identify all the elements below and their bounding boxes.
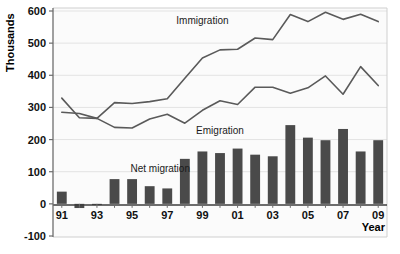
bar-94 bbox=[110, 179, 120, 204]
y-tick-label-600: 600 bbox=[28, 5, 46, 17]
bar-03 bbox=[268, 156, 278, 204]
y-axis-ticks: -1000100200300400500600 bbox=[24, 5, 53, 242]
y-tick-label-100: 100 bbox=[28, 166, 46, 178]
x-axis-title: Year bbox=[362, 221, 386, 233]
y-tick-label-0: 0 bbox=[40, 198, 46, 210]
y-tick-label-200: 200 bbox=[28, 134, 46, 146]
y-tick-label-400: 400 bbox=[28, 69, 46, 81]
bar-91 bbox=[57, 192, 67, 204]
bar-00 bbox=[215, 153, 225, 204]
y-axis-title: Thousands bbox=[4, 13, 16, 72]
x-tick-label-09: 09 bbox=[372, 209, 384, 221]
x-tick-label-01: 01 bbox=[231, 209, 243, 221]
net-migration-label: Net migration bbox=[130, 163, 189, 174]
bar-04 bbox=[285, 125, 295, 204]
x-tick-label-03: 03 bbox=[267, 209, 279, 221]
x-tick-label-93: 93 bbox=[91, 209, 103, 221]
x-tick-label-07: 07 bbox=[337, 209, 349, 221]
bar-95 bbox=[127, 179, 137, 204]
immigration-label: Immigration bbox=[176, 15, 228, 26]
bar-02 bbox=[250, 155, 260, 204]
y-tick-label-300: 300 bbox=[28, 101, 46, 113]
bar-06 bbox=[321, 140, 331, 204]
y-tick-label-500: 500 bbox=[28, 37, 46, 49]
y-tick-label--100: -100 bbox=[24, 230, 46, 242]
bar-97 bbox=[162, 188, 172, 203]
bar-09 bbox=[373, 140, 383, 204]
bar-96 bbox=[145, 186, 155, 204]
x-tick-label-99: 99 bbox=[196, 209, 208, 221]
x-tick-label-95: 95 bbox=[126, 209, 138, 221]
migration-chart: -1000100200300400500600 9193959799010305… bbox=[0, 0, 400, 254]
bar-08 bbox=[356, 151, 366, 203]
bar-05 bbox=[303, 138, 313, 204]
bar-99 bbox=[198, 151, 208, 203]
bar-07 bbox=[338, 129, 348, 204]
bar-01 bbox=[233, 149, 243, 204]
x-tick-label-91: 91 bbox=[56, 209, 68, 221]
chart-svg: -1000100200300400500600 9193959799010305… bbox=[0, 0, 400, 254]
emigration-label: Emigration bbox=[196, 125, 244, 136]
x-tick-label-05: 05 bbox=[302, 209, 314, 221]
x-tick-label-97: 97 bbox=[161, 209, 173, 221]
